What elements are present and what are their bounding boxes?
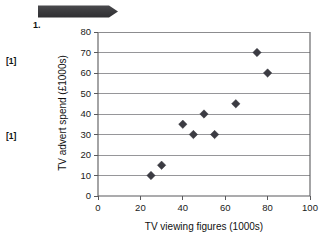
x-tick-label-0: 0: [95, 202, 100, 213]
x-tick-label-80: 80: [262, 202, 273, 213]
y-tick-label-20: 20: [80, 149, 91, 160]
data-point: [263, 69, 271, 77]
x-tick-labels-group: 020406080100: [95, 202, 318, 213]
data-point: [232, 100, 240, 108]
y-tick-label-50: 50: [80, 88, 91, 99]
x-tick-label-60: 60: [220, 202, 231, 213]
data-point: [189, 130, 197, 138]
y-axis-title: TV advert spend (£1000s): [57, 55, 68, 171]
x-tick-marks-group: [98, 196, 310, 200]
data-point: [179, 120, 187, 128]
x-tick-label-40: 40: [178, 202, 189, 213]
y-tick-label-60: 60: [80, 67, 91, 78]
x-tick-label-100: 100: [302, 202, 318, 213]
x-axis-title: TV viewing figures (1000s): [145, 221, 263, 232]
y-tick-label-70: 70: [80, 47, 91, 58]
y-tick-labels-group: 01020304050607080: [80, 26, 91, 201]
y-tick-label-80: 80: [80, 26, 91, 37]
y-tick-label-10: 10: [80, 170, 91, 181]
data-point: [253, 48, 261, 56]
y-tick-label-40: 40: [80, 108, 91, 119]
gridlines-group: [98, 32, 310, 176]
x-tick-label-20: 20: [135, 202, 146, 213]
y-tick-marks-group: [94, 32, 98, 196]
y-tick-label-30: 30: [80, 129, 91, 140]
data-point: [200, 110, 208, 118]
data-point: [210, 130, 218, 138]
scatter-chart: 020406080100 01020304050607080 TV viewin…: [0, 0, 336, 235]
data-point: [147, 171, 155, 179]
data-point: [157, 161, 165, 169]
y-tick-label-0: 0: [86, 190, 91, 201]
